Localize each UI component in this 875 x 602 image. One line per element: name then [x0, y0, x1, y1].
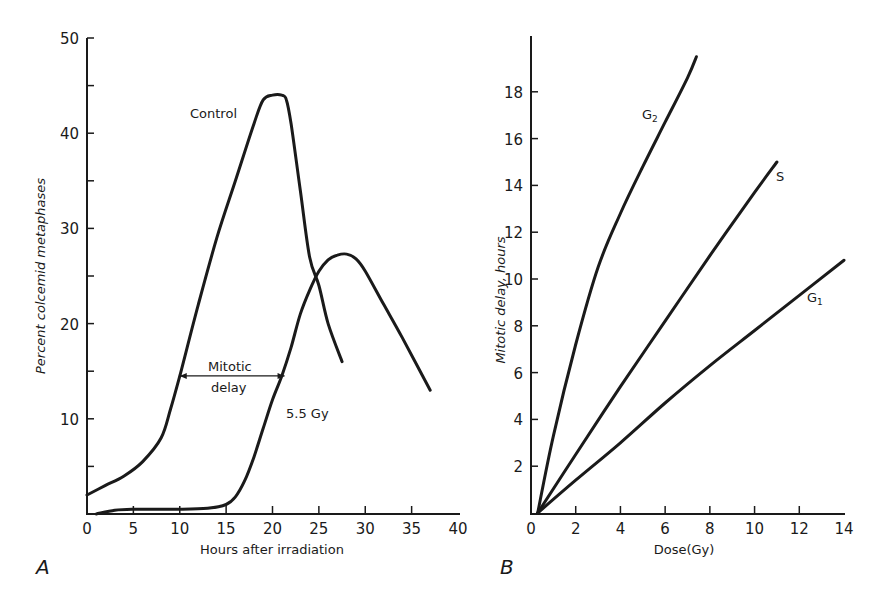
- panel-a-x-label: Hours after irradiation: [200, 542, 344, 557]
- x-tick-label: 2: [571, 520, 581, 538]
- curve-g1: [538, 260, 844, 513]
- x-tick-label: 5: [129, 520, 139, 538]
- panel-b-y-ticks: 24681012141618: [504, 84, 538, 476]
- y-tick-label: 2: [513, 458, 523, 476]
- label-control: Control: [190, 106, 237, 121]
- label-g1: G1: [807, 290, 823, 307]
- x-tick-label: 8: [705, 520, 715, 538]
- label-s: S: [776, 169, 784, 184]
- label-5-5-gy: 5.5 Gy: [286, 406, 329, 421]
- x-tick-label: 0: [526, 520, 536, 538]
- y-tick-label: 50: [60, 30, 79, 48]
- y-tick-label: 18: [504, 84, 523, 102]
- y-tick-label: 16: [504, 131, 523, 149]
- x-tick-label: 6: [660, 520, 670, 538]
- panel-b-x-ticks: 02468101214: [526, 506, 853, 538]
- panel-b-chart: 24681012141618 02468101214 G2 S G1 Dose(…: [493, 36, 854, 579]
- panel-b-curves: [538, 57, 844, 513]
- panel-b-x-label: Dose(Gy): [654, 542, 715, 557]
- x-tick-label: 40: [448, 520, 467, 538]
- curve-5-5-gy: [96, 254, 430, 514]
- y-tick-label: 10: [60, 411, 79, 429]
- x-tick-label: 30: [356, 520, 375, 538]
- y-tick-label: 6: [513, 365, 523, 383]
- x-tick-label: 20: [263, 520, 282, 538]
- x-tick-label: 10: [170, 520, 189, 538]
- label-delay: delay: [211, 380, 247, 395]
- figure-canvas: 1020304050 0510152025303540 Control Mito…: [0, 0, 875, 602]
- panel-a-chart: 1020304050 0510152025303540 Control Mito…: [33, 30, 468, 579]
- y-tick-label: 4: [513, 411, 523, 429]
- y-tick-label: 8: [513, 318, 523, 336]
- y-tick-label: 40: [60, 125, 79, 143]
- panel-a-letter: A: [34, 555, 50, 579]
- x-tick-label: 25: [309, 520, 328, 538]
- y-tick-label: 30: [60, 220, 79, 238]
- y-tick-label: 20: [60, 316, 79, 334]
- panel-a-curves: [87, 95, 430, 515]
- x-tick-label: 15: [217, 520, 236, 538]
- curve-s: [538, 162, 777, 513]
- figure: 1020304050 0510152025303540 Control Mito…: [0, 0, 875, 602]
- x-tick-label: 12: [790, 520, 809, 538]
- x-tick-label: 0: [82, 520, 92, 538]
- panel-a-y-label: Percent colcemid metaphases: [33, 178, 48, 374]
- x-tick-label: 35: [402, 520, 421, 538]
- x-tick-label: 14: [834, 520, 853, 538]
- panel-a-y-ticks: 1020304050: [60, 30, 94, 466]
- curve-control: [87, 95, 342, 496]
- label-g2: G2: [642, 107, 658, 124]
- panel-b-y-label: Mitotic delay, hours: [493, 236, 508, 363]
- label-mitotic: Mitotic: [208, 359, 252, 374]
- panel-b-letter: B: [500, 555, 514, 579]
- panel-a-x-ticks: 0510152025303540: [82, 506, 467, 538]
- x-tick-label: 10: [745, 520, 764, 538]
- y-tick-label: 14: [504, 177, 523, 195]
- x-tick-label: 4: [616, 520, 626, 538]
